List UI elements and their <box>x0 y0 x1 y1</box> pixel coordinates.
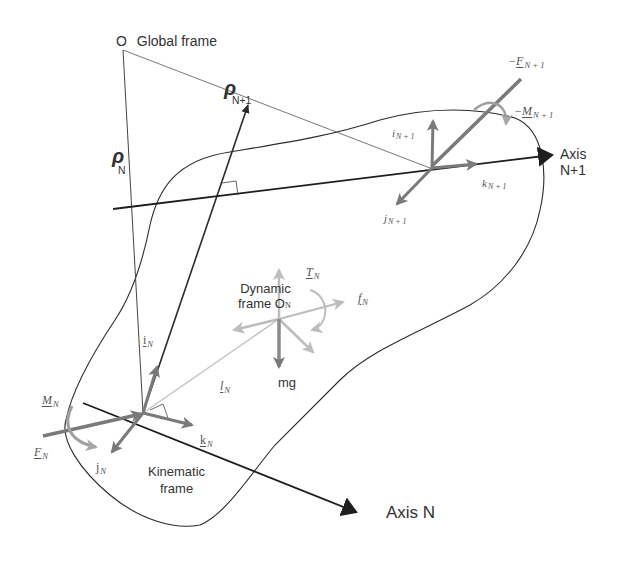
k-n-vector <box>143 413 192 425</box>
t-n-sub: N <box>314 271 320 281</box>
m-n1-sub: N + 1 <box>533 110 553 120</box>
f-n-dyn-sub: N <box>362 297 368 307</box>
m-n1-label: −MN + 1 <box>514 105 553 117</box>
i-n1-vector <box>432 121 433 168</box>
l-n-vector <box>143 319 279 413</box>
axis-n1-label-line1: Axis <box>560 146 586 162</box>
j-n-base: j <box>96 460 99 474</box>
k-n-base: k <box>200 433 206 447</box>
diagram-canvas: O Global frame ρ N ρ N+1 Axis N+1 Axis N… <box>0 0 617 561</box>
l-n-sub: N <box>224 385 230 395</box>
rigid-body-outline <box>65 110 544 526</box>
l-n-base: l <box>220 379 223 393</box>
axis-n-label: Axis N <box>386 504 435 521</box>
f-n1-sub: N + 1 <box>524 60 544 70</box>
dynamic-frame-line2: frame O <box>238 296 285 311</box>
k-n-label: kN <box>200 434 213 446</box>
global-frame-title: Global frame <box>137 33 217 49</box>
f-n1-force-line <box>432 79 521 166</box>
m-n-base: M <box>42 393 52 407</box>
k-n1-sub: N + 1 <box>488 182 507 191</box>
m-n1-base: M <box>522 104 532 118</box>
f-n1-base: F <box>516 54 523 68</box>
rho-n1-vector <box>143 105 248 413</box>
k-n1-label: kN + 1 <box>482 178 506 189</box>
k-n1-vector <box>432 164 476 168</box>
f-n1-label: −FN + 1 <box>508 55 545 67</box>
k-n1-base: k <box>482 177 487 189</box>
l-n-label: lN <box>220 380 230 392</box>
kinematic-frame-label: Kinematic frame <box>148 463 205 497</box>
dyn-lower-right-vector <box>279 319 313 352</box>
rho-n-label: ρ N <box>112 146 126 176</box>
f-n-sub: N <box>42 451 48 461</box>
rho-n-line <box>123 50 143 413</box>
global-to-next-joint-line <box>123 50 430 168</box>
global-frame-label: O Global frame <box>116 34 217 48</box>
j-n1-base: j <box>384 212 387 224</box>
i-n1-label: iN + 1 <box>392 128 415 139</box>
j-n-sub: N <box>100 466 106 476</box>
mg-label: mg <box>278 376 296 389</box>
axis-n1-label: Axis N+1 <box>560 146 586 178</box>
axis-n1-label-line2: N+1 <box>560 162 586 178</box>
j-n-label: jN <box>96 461 106 473</box>
f-n-dyn-label: fN <box>358 292 368 304</box>
i-n1-sub: N + 1 <box>396 132 415 141</box>
m-n1-prefix: − <box>514 104 522 118</box>
m-n-label: MN <box>42 394 59 406</box>
i-n-sub: N <box>147 339 153 349</box>
j-n1-sub: N + 1 <box>388 217 407 226</box>
right-angle-marker-upper <box>222 181 238 195</box>
rho-n1-label: ρ N+1 <box>224 78 251 106</box>
k-n-sub: N <box>207 439 213 449</box>
dynamic-frame-label: Dynamic frame ON <box>238 281 291 313</box>
i-n1-base: i <box>392 127 395 139</box>
t-n-label: TN <box>306 266 319 278</box>
dynamic-frame-line1: Dynamic <box>238 281 291 296</box>
f-n-dyn-base: f <box>358 291 361 305</box>
t-n-base: T <box>306 265 313 279</box>
rho-n-symbol: ρ <box>112 146 126 166</box>
kinematic-frame-line2: frame <box>148 480 205 497</box>
i-n-base: i <box>143 333 146 347</box>
j-n1-label: jN + 1 <box>384 213 407 224</box>
kinematic-frame-line1: Kinematic <box>148 463 205 480</box>
m-n-sub: N <box>53 399 59 409</box>
dynamic-frame-sub: N <box>285 301 291 310</box>
f-n1-prefix: − <box>508 54 516 68</box>
global-origin-label: O <box>116 33 127 49</box>
diagram-graphics <box>0 0 617 561</box>
f-n-label: FN <box>34 446 48 458</box>
i-n-label: iN <box>143 334 153 346</box>
i-n-vector <box>143 367 157 413</box>
rho-n1-subscript: N+1 <box>232 96 251 106</box>
rho-n-subscript: N <box>118 166 126 176</box>
f-n-base: F <box>34 445 41 459</box>
